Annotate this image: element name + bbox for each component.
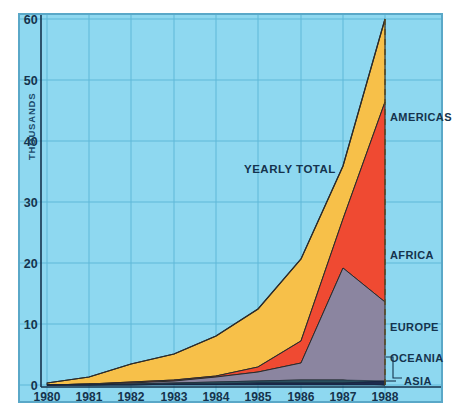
x-tick-label-1980: 1980 [24,391,70,403]
x-tick-label-1985: 1985 [235,391,281,403]
series-label-americas: AMERICAS [390,111,452,123]
x-tick-label-1981: 1981 [66,391,112,403]
series-label-oceania: OCEANIA [390,352,444,364]
y-tick-label-50: 50 [12,75,38,88]
y-tick-label-10: 10 [12,319,38,332]
y-tick-label-60: 60 [12,14,38,27]
series-label-europe: EUROPE [390,321,439,333]
series-label-asia: ASIA [404,375,432,387]
chart-graphics [0,0,455,419]
x-tick-label-1984: 1984 [193,391,239,403]
x-tick-label-1988: 1988 [362,391,408,403]
y-tick-label-30: 30 [12,197,38,210]
series-label-africa: AFRICA [390,249,434,261]
y-tick-label-20: 20 [12,258,38,271]
x-tick-label-1986: 1986 [278,391,324,403]
y-axis-title: THOUSANDS [26,93,37,160]
x-tick-label-1983: 1983 [151,391,197,403]
x-tick-label-1982: 1982 [108,391,154,403]
annotation-yearly-total: YEARLY TOTAL [244,163,336,175]
stacked-area-chart-figure: 60 50 40 30 20 10 0 THOUSANDS 1980 1981 … [0,0,455,419]
x-tick-label-1987: 1987 [320,391,366,403]
